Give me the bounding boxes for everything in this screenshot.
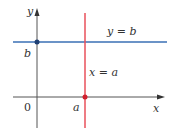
x-axis-arrow-icon <box>157 95 165 100</box>
point-b-label: b <box>24 47 31 60</box>
y-axis-arrow-icon <box>35 8 40 16</box>
point-b <box>35 40 40 45</box>
coordinate-diagram: y x 0 b a y = b x = a <box>0 0 178 128</box>
x-axis-label: x <box>153 102 160 115</box>
point-a-label: a <box>73 101 80 114</box>
origin-label: 0 <box>24 101 31 114</box>
horizontal-line-label: y = b <box>106 25 136 38</box>
point-a <box>83 95 88 100</box>
y-axis-label: y <box>26 5 34 18</box>
vertical-line-label: x = a <box>89 66 118 79</box>
